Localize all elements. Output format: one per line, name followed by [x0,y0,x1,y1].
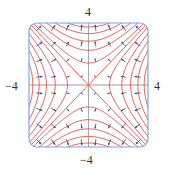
vector-field-plot [0,0,171,175]
x-min-label: −4 [5,80,18,92]
x-max-label: 4 [154,80,160,92]
y-max-label: 4 [85,6,91,18]
y-min-label: −4 [80,154,93,166]
